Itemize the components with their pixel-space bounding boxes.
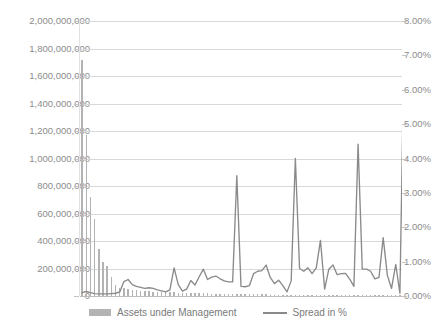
legend-label-spread-in-percent: Spread in %	[293, 307, 347, 318]
y-axis-right-tick-label: 6.00%	[404, 85, 431, 95]
y-axis-right-tick	[402, 262, 407, 263]
y-axis-right-tick-label: 2.00%	[404, 222, 431, 232]
plot-area	[80, 21, 402, 296]
y-axis-right-tick-label: 8.00%	[404, 16, 431, 26]
y-axis-right-tick-label: 0.00%	[404, 291, 431, 301]
y-axis-right-tick	[402, 90, 407, 91]
y-axis-left-tick	[74, 296, 79, 297]
line-series-spread-in-percent	[80, 21, 402, 296]
x-axis-line	[80, 296, 402, 297]
y-axis-right-tick-label: 7.00%	[404, 50, 431, 60]
legend-item-spread-in-percent: Spread in %	[263, 307, 347, 318]
y-axis-right-tick-label: 4.00%	[404, 154, 431, 164]
legend-item-assets-under-management: Assets under Management	[89, 307, 237, 318]
line-swatch-icon	[263, 312, 287, 314]
y-axis-right-tick	[402, 227, 407, 228]
y-axis-right-tick	[402, 159, 407, 160]
y-axis-right-tick	[402, 55, 407, 56]
y-axis-right-tick-label: 5.00%	[404, 119, 431, 129]
y-axis-right-tick	[402, 296, 407, 297]
y-axis-right-tick-label: 3.00%	[404, 188, 431, 198]
legend: Assets under Management Spread in %	[0, 307, 436, 318]
y-axis-right-tick-label: 1.00%	[404, 257, 431, 267]
y-axis-right-tick	[402, 193, 407, 194]
y-axis-right-tick	[402, 21, 407, 22]
legend-label-assets-under-management: Assets under Management	[117, 307, 237, 318]
y-axis-right-tick	[402, 124, 407, 125]
bar-swatch-icon	[89, 309, 111, 316]
chart-container: 2,000,000,0001,800,000,0001,600,000,0001…	[0, 0, 436, 335]
